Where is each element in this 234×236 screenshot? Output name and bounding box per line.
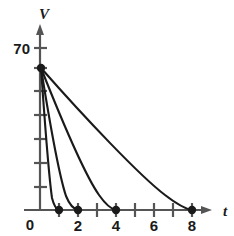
- x-axis-arrowhead: [201, 206, 212, 214]
- x-tick-label-6: 6: [150, 217, 158, 234]
- y-axis-title: V: [39, 6, 51, 22]
- x-axis-title: t: [223, 203, 228, 219]
- axes-group: [24, 24, 212, 214]
- x-tick-label-2: 2: [74, 217, 82, 234]
- decay-curves-group: [41, 68, 192, 210]
- y-axis-arrowhead: [36, 24, 44, 35]
- y-intercept-marker: [37, 64, 45, 72]
- x-intercept-marker-4: [112, 206, 120, 214]
- x-intercept-marker-2: [74, 206, 82, 214]
- y-tick-label-70: 70: [13, 40, 30, 57]
- x-tick-label-8: 8: [188, 217, 196, 234]
- marker-dots-group: [37, 64, 196, 214]
- x-intercept-marker-8: [188, 206, 196, 214]
- x-intercept-marker-1: [55, 206, 63, 214]
- chart-canvas: V t 70 0 2 4 6 8: [0, 0, 234, 236]
- x-tick-label-4: 4: [112, 217, 121, 234]
- origin-label: 0: [26, 216, 34, 233]
- exponential-decay-chart: V t 70 0 2 4 6 8: [0, 0, 234, 236]
